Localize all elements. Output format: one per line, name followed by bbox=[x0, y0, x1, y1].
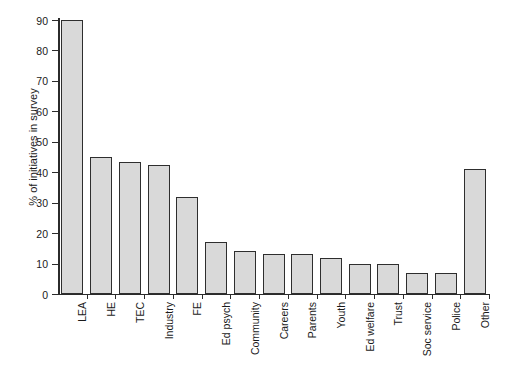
y-axis-tick: 90 bbox=[52, 20, 59, 21]
x-axis-label: HE bbox=[106, 302, 117, 317]
y-axis-tick: 20 bbox=[52, 233, 59, 234]
x-axis-label: LEA bbox=[77, 302, 88, 322]
bar bbox=[90, 157, 112, 294]
y-axis-tick: 50 bbox=[52, 142, 59, 143]
x-axis-label: Soc service bbox=[422, 302, 433, 356]
x-axis-label: Community bbox=[250, 302, 261, 355]
x-axis-label: Careers bbox=[279, 302, 290, 339]
bar-chart: % of initiatives in survey 0102030405060… bbox=[0, 0, 522, 369]
x-axis-label: Ed psych bbox=[221, 302, 232, 345]
y-axis-tick-label: 70 bbox=[36, 76, 48, 87]
x-axis-tick bbox=[230, 294, 231, 299]
x-axis-tick bbox=[202, 294, 203, 299]
x-axis-tick bbox=[317, 294, 318, 299]
y-axis-line bbox=[58, 18, 60, 295]
y-axis-tick: 80 bbox=[52, 50, 59, 51]
bar bbox=[263, 254, 285, 294]
x-axis-label: TEC bbox=[135, 302, 146, 323]
x-axis-tick bbox=[345, 294, 346, 299]
x-axis-tick bbox=[259, 294, 260, 299]
y-axis-tick-label: 0 bbox=[42, 289, 48, 300]
bar bbox=[320, 258, 342, 294]
bar bbox=[349, 264, 371, 294]
x-axis-tick bbox=[489, 294, 490, 299]
y-axis-tick-label: 90 bbox=[36, 15, 48, 26]
x-axis-tick bbox=[374, 294, 375, 299]
bar bbox=[234, 251, 256, 294]
y-axis-tick-label: 60 bbox=[36, 107, 48, 118]
bar bbox=[406, 273, 428, 294]
y-axis-tick: 10 bbox=[52, 264, 59, 265]
y-axis-tick: 40 bbox=[52, 172, 59, 173]
x-axis-tick bbox=[173, 294, 174, 299]
x-axis-tick bbox=[115, 294, 116, 299]
bar bbox=[148, 165, 170, 294]
x-axis-label: Trust bbox=[393, 302, 404, 326]
y-axis-tick: 0 bbox=[52, 294, 59, 295]
bar bbox=[176, 197, 198, 294]
x-axis-label: Ed welfare bbox=[365, 302, 376, 352]
y-axis-tick: 70 bbox=[52, 81, 59, 82]
bar bbox=[119, 162, 141, 294]
x-axis-tick bbox=[87, 294, 88, 299]
x-axis-tick bbox=[144, 294, 145, 299]
x-axis-tick bbox=[432, 294, 433, 299]
y-axis-tick-label: 30 bbox=[36, 198, 48, 209]
x-axis-tick bbox=[288, 294, 289, 299]
y-axis-tick-label: 40 bbox=[36, 167, 48, 178]
y-axis-tick-label: 80 bbox=[36, 46, 48, 57]
bar bbox=[205, 242, 227, 294]
y-axis-tick-label: 10 bbox=[36, 259, 48, 270]
bar bbox=[464, 169, 486, 294]
y-axis-tick-label: 50 bbox=[36, 137, 48, 148]
bar bbox=[435, 273, 457, 294]
y-axis-tick-label: 20 bbox=[36, 228, 48, 239]
bar bbox=[291, 254, 313, 294]
x-axis-label: Police bbox=[451, 302, 462, 331]
bar bbox=[377, 264, 399, 294]
x-axis-label: Parents bbox=[307, 302, 318, 338]
x-axis-tick bbox=[460, 294, 461, 299]
bar bbox=[61, 20, 83, 294]
y-axis-tick: 30 bbox=[52, 203, 59, 204]
y-axis-tick: 60 bbox=[52, 111, 59, 112]
x-axis-label: Youth bbox=[336, 302, 347, 328]
x-axis-label: FE bbox=[192, 302, 203, 315]
x-axis-label: Other bbox=[480, 302, 491, 328]
x-axis-label: Industry bbox=[164, 302, 175, 339]
x-axis-tick bbox=[403, 294, 404, 299]
